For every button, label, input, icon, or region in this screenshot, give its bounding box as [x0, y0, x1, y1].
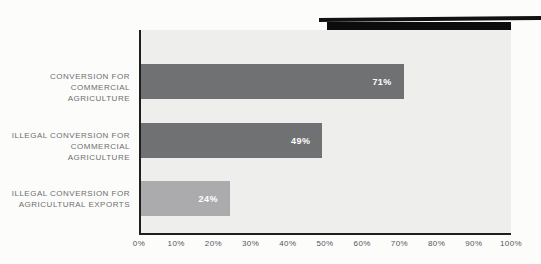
category-label-line: COMMERCIAL AGRICULTURE	[10, 141, 130, 163]
category-label-line: CONVERSION FOR	[10, 71, 130, 82]
x-tick-label-60: 60%	[354, 239, 371, 248]
x-tick-label-20: 20%	[205, 239, 222, 248]
category-label-line: COMMERCIAL AGRICULTURE	[10, 82, 130, 104]
x-axis: 0%10%20%30%40%50%60%70%80%90%100%	[139, 239, 511, 253]
category-label-line: ILLEGAL CONVERSION FOR	[10, 188, 130, 199]
category-label-line: ILLEGAL CONVERSION FOR	[10, 130, 130, 141]
x-tick-label-30: 30%	[242, 239, 259, 248]
category-label-3: ILLEGAL CONVERSION FORAGRICULTURAL EXPOR…	[10, 188, 130, 210]
x-tick-label-80: 80%	[428, 239, 445, 248]
bar-value-label: 24%	[199, 194, 230, 204]
category-label-2: ILLEGAL CONVERSION FORCOMMERCIAL AGRICUL…	[10, 130, 130, 163]
x-tick-label-10: 10%	[168, 239, 185, 248]
category-label-1: CONVERSION FORCOMMERCIAL AGRICULTURE	[10, 71, 130, 104]
x-tick-label-50: 50%	[316, 239, 333, 248]
category-label-line: AGRICULTURAL EXPORTS	[10, 199, 130, 210]
x-tick-label-0: 0%	[133, 239, 145, 248]
bar-value-label: 49%	[291, 136, 322, 146]
x-tick-label-40: 40%	[279, 239, 296, 248]
x-tick-label-70: 70%	[391, 239, 408, 248]
bar-value-label: 71%	[372, 77, 403, 87]
x-tick-label-100: 100%	[500, 239, 522, 248]
plot-area: 71%49%24%	[139, 30, 511, 235]
chart-canvas: ESTIMATED SHARE OF TROPICAL DEFORESTATIO…	[0, 0, 541, 264]
bar-3: 24%	[141, 181, 230, 216]
x-tick-label-90: 90%	[465, 239, 482, 248]
bar-1: 71%	[141, 64, 404, 99]
bar-2: 49%	[141, 123, 322, 158]
